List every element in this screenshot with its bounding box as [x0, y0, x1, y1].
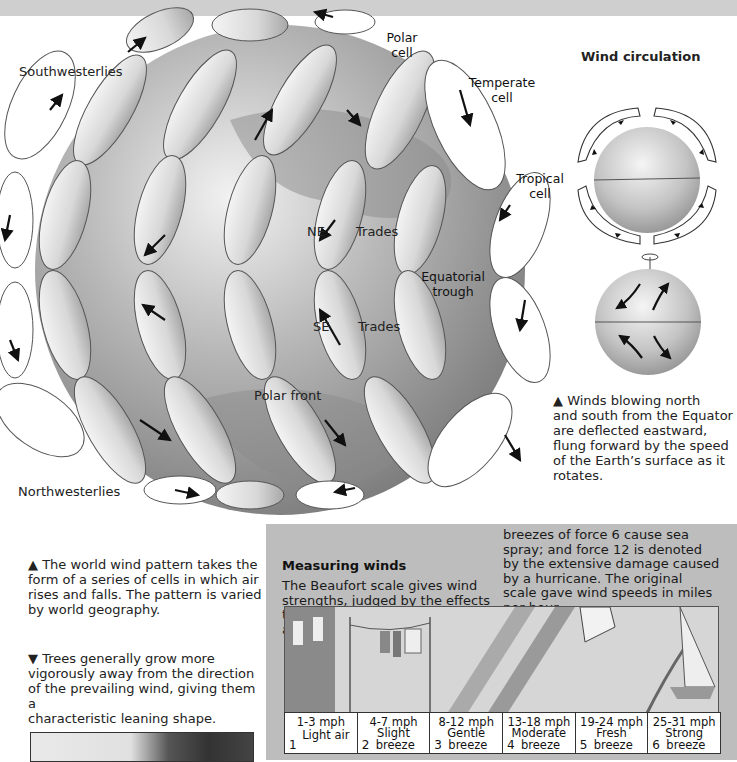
- measuring-winds-col2: breezes of force 6 cause sea spray; and …: [503, 528, 733, 615]
- beaufort-scale-table: 1-3 mph Light air 1 4-7 mph Slight breez…: [284, 712, 721, 754]
- wind-circulation-diagram: [560, 100, 737, 380]
- beaufort-force-2: 4-7 mph Slight breeze 2: [358, 713, 431, 753]
- beaufort-force-5: 19-24 mph Fresh breeze 5: [576, 713, 649, 753]
- label-northwesterlies: Northwesterlies: [18, 484, 120, 500]
- measuring-winds-panel: Measuring winds The Beaufort scale gives…: [266, 524, 737, 760]
- beaufort-scene-illustration: [284, 606, 719, 728]
- label-equatorial-trough: Equatorial trough: [418, 269, 488, 299]
- ribbon-row-polar-south: [144, 476, 364, 509]
- tree-photo: [30, 732, 254, 762]
- label-se-trades: Trades: [358, 319, 400, 335]
- label-southwesterlies: Southwesterlies: [19, 64, 123, 80]
- label-se: SE: [313, 319, 329, 335]
- label-polar-cell: Polar cell: [382, 30, 422, 60]
- trees-caption: ▼ Trees generally grow more vigorously a…: [28, 651, 263, 726]
- beaufort-force-6: 25-31 mph Strong breeze 6: [648, 713, 720, 753]
- beaufort-force-3: 8-12 mph Gentle breeze 3: [430, 713, 503, 753]
- label-ne: NE: [307, 224, 325, 240]
- measuring-winds-title: Measuring winds: [282, 558, 406, 573]
- beaufort-force-1: 1-3 mph Light air 1: [285, 713, 358, 753]
- label-ne-trades: Trades: [356, 224, 398, 240]
- wind-circulation-caption: ▲ Winds blowing north and south from the…: [553, 393, 733, 483]
- beaufort-force-4: 13-18 mph Moderate breeze 4: [503, 713, 576, 753]
- label-temperate-cell: Temperate cell: [467, 75, 537, 105]
- wind-circulation-title: Wind circulation: [581, 49, 701, 64]
- world-wind-caption: ▲ The world wind pattern takes the form …: [28, 557, 263, 617]
- label-polar-front: Polar front: [254, 388, 321, 404]
